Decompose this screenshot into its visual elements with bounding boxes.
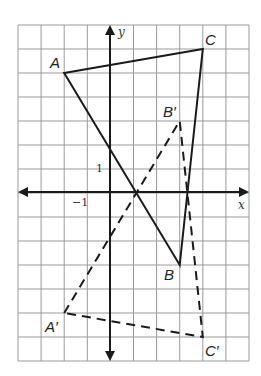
x-axis-label: x <box>238 199 245 211</box>
y-axis-up-arrow-icon <box>105 25 115 35</box>
y-tick-label: 1 <box>96 163 103 174</box>
vertex-label-b: B <box>164 267 174 282</box>
x-axis-left-arrow-icon <box>18 187 28 197</box>
vertex-label-c: C <box>205 32 216 47</box>
vertex-label-a: A <box>50 55 60 70</box>
vertex-label-a-prime: A′ <box>45 319 58 334</box>
coordinate-grid <box>0 0 261 376</box>
y-axis-label: y <box>118 26 125 38</box>
y-axis-down-arrow-icon <box>105 351 115 361</box>
vertex-label-b-prime: B′ <box>163 104 176 119</box>
vertex-label-c-prime: C′ <box>205 343 219 358</box>
x-axis-right-arrow-icon <box>239 187 249 197</box>
x-tick-label: −1 <box>72 197 88 208</box>
